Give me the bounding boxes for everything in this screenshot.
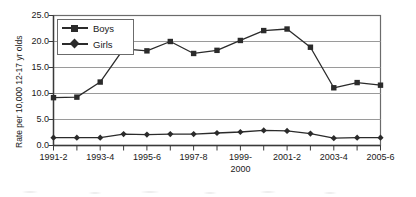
data-point-marker <box>168 39 173 44</box>
data-point-marker <box>144 48 149 53</box>
y-axis-ticks <box>49 16 54 146</box>
x-axis-ticks <box>54 146 381 151</box>
data-point-marker <box>51 95 56 100</box>
legend-item-girls: Girls <box>58 36 133 52</box>
data-point-marker <box>98 79 103 84</box>
data-point-marker <box>308 45 313 50</box>
legend-marker-square-icon <box>62 22 88 34</box>
chart-legend: Boys Girls <box>57 19 134 55</box>
data-point-marker <box>238 38 243 43</box>
data-point-marker <box>284 26 289 31</box>
data-point-marker <box>74 94 79 99</box>
x-tick-label: 2005-6 <box>351 152 411 162</box>
legend-label-girls: Girls <box>88 39 113 50</box>
data-point-marker <box>261 28 266 33</box>
legend-marker-diamond-icon <box>62 38 88 50</box>
line-chart: Rate per 10,000 12-17 yr olds 25.0 20.0 … <box>0 0 416 197</box>
legend-item-boys: Boys <box>58 20 133 36</box>
data-point-marker <box>354 80 359 85</box>
scan-artifact-band <box>0 187 416 197</box>
legend-label-boys: Boys <box>88 23 114 34</box>
data-point-marker <box>378 82 383 87</box>
data-point-marker <box>191 51 196 56</box>
data-point-marker <box>214 48 219 53</box>
x-tick-label-second-line: 2000 <box>210 164 270 174</box>
data-point-marker <box>331 85 336 90</box>
